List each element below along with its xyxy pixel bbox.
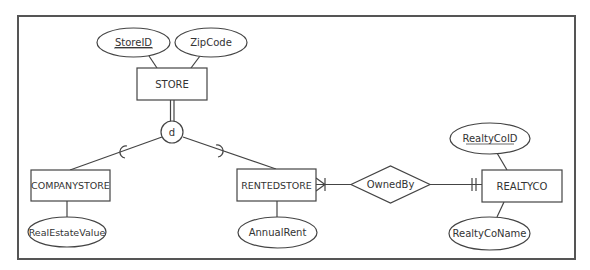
attribute-zipcode[interactable]: ZipCode	[175, 28, 247, 57]
entity-rentedstore-label: RENTEDSTORE	[241, 180, 312, 191]
attribute-annualrent-label: AnnualRent	[249, 227, 307, 238]
attribute-zipcode-label: ZipCode	[190, 37, 232, 48]
entity-store[interactable]: STORE	[137, 68, 207, 100]
entity-store-label: STORE	[155, 79, 189, 90]
attribute-annualrent[interactable]: AnnualRent	[238, 217, 317, 248]
attribute-realtyconame-label: RealtyCoName	[453, 228, 527, 239]
attribute-realtycoid[interactable]: RealtyCoID	[450, 123, 530, 154]
entity-realtyco[interactable]: REALTYCO	[482, 170, 562, 202]
er-diagram-canvas: StoreID ZipCode RealEstateValue AnnualRe…	[0, 0, 590, 270]
relationship-ownedby-label: OwnedBy	[367, 179, 415, 190]
attribute-realtyconame[interactable]: RealtyCoName	[449, 217, 530, 250]
attribute-realestatevalue-label: RealEstateValue	[29, 227, 106, 238]
entity-realtyco-label: REALTYCO	[497, 181, 548, 192]
entity-companystore-label: COMPANYSTORE	[31, 180, 110, 191]
attribute-storeid[interactable]: StoreID	[97, 28, 170, 57]
entity-rentedstore[interactable]: RENTEDSTORE	[237, 169, 316, 201]
entity-companystore[interactable]: COMPANYSTORE	[31, 170, 110, 201]
attribute-realtycoid-label: RealtyCoID	[462, 133, 517, 144]
attribute-storeid-label: StoreID	[115, 37, 152, 48]
disjoint-constraint-circle[interactable]: d	[161, 121, 183, 143]
disjoint-constraint-label: d	[169, 127, 175, 138]
attribute-realestatevalue[interactable]: RealEstateValue	[28, 217, 106, 247]
